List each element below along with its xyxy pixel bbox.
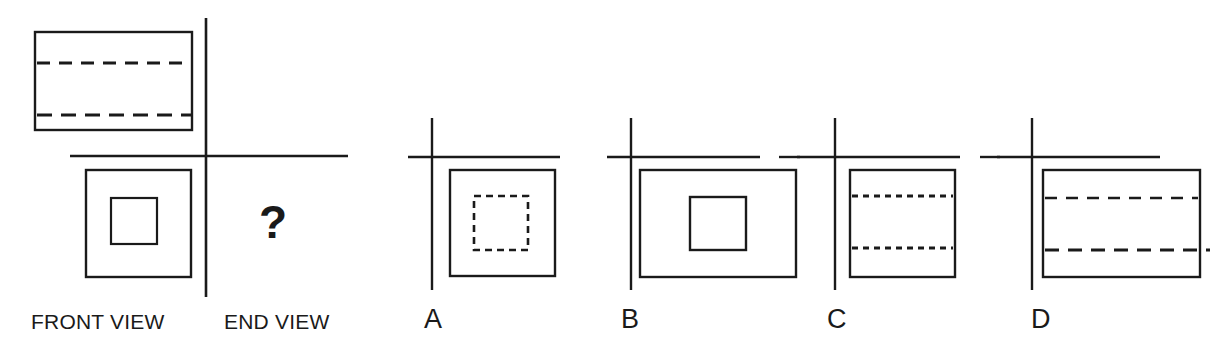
missing-view-question-mark: ? — [259, 199, 287, 245]
option-a-outline — [450, 170, 555, 276]
option-c-label[interactable]: C — [827, 306, 847, 333]
end-view-label: END VIEW — [224, 311, 329, 332]
option-a-inner-dashed-square — [474, 196, 528, 250]
option-c-outline — [850, 170, 955, 277]
option-b-inner-square — [690, 197, 746, 250]
option-b-outline — [640, 170, 796, 277]
option-d-outline — [1043, 170, 1200, 277]
option-a-group[interactable] — [408, 118, 560, 290]
option-d-label[interactable]: D — [1031, 306, 1051, 333]
top-view-outline — [86, 170, 191, 277]
option-d-group[interactable] — [997, 118, 1210, 290]
given-views-group — [35, 18, 348, 297]
option-c-group[interactable] — [797, 118, 1000, 290]
top-view-inner-square — [111, 198, 157, 244]
option-a-label[interactable]: A — [424, 306, 442, 333]
option-b-label[interactable]: B — [621, 306, 639, 333]
front-view-label: FRONT VIEW — [31, 311, 164, 332]
diagram-canvas: ? FRONT VIEW END VIEW A B C D — [0, 0, 1229, 360]
option-b-group[interactable] — [607, 118, 800, 290]
